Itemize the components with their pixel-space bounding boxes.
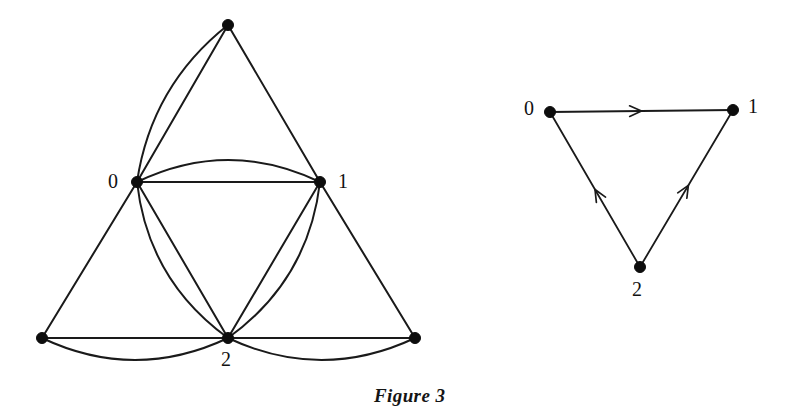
arrowhead-d2-d1: [678, 185, 689, 198]
vertex-label-v2: 2: [221, 349, 231, 369]
vertex-v2: [223, 333, 234, 344]
edge-apex-v1-2: [228, 25, 320, 182]
figure-container: 012 012 Figure 3: [0, 0, 788, 420]
vertex-d0: [545, 107, 556, 118]
edge-bottom_left-v2-12: [42, 338, 228, 360]
vertex-label-d1: 1: [748, 96, 758, 116]
vertex-v0: [132, 177, 143, 188]
edge-v2-bottom_right-14: [228, 338, 415, 360]
right-diagram-arrowheads: [595, 106, 688, 203]
right-diagram-vertices: [545, 105, 739, 273]
vertex-bottom_right: [410, 333, 421, 344]
vertex-label-d2: 2: [632, 279, 642, 299]
vertex-label-v0: 0: [108, 171, 118, 191]
vertex-d1: [728, 105, 739, 116]
right-diagram-edges: [550, 110, 733, 267]
edge-apex-v0-0: [137, 25, 228, 182]
edge-v0-v1-4: [137, 160, 320, 182]
left-diagram-edges: [42, 25, 415, 360]
edge-d2-d1-2: [640, 110, 733, 267]
edge-v1-bottom_right-10: [320, 182, 415, 338]
vertex-apex: [223, 20, 234, 31]
vertex-label-v1: 1: [338, 171, 348, 191]
edge-v1-v2-7: [228, 182, 320, 338]
vertex-d2: [635, 262, 646, 273]
figure-drawing-canvas: [0, 0, 788, 420]
edge-v0-v2-5: [137, 182, 228, 338]
vertex-v1: [315, 177, 326, 188]
vertex-label-d0: 0: [524, 98, 534, 118]
arrowhead-d2-d0: [595, 190, 606, 203]
vertex-bottom_left: [37, 333, 48, 344]
edge-v0-bottom_left-9: [42, 182, 137, 338]
figure-caption: Figure 3: [374, 385, 445, 407]
